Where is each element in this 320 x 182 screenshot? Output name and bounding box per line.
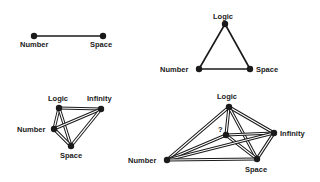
- d3-label-infinity: Infinity: [87, 94, 112, 103]
- d2-node-space: [247, 66, 253, 72]
- d3-node-number: [51, 126, 57, 132]
- d3-node-space: [68, 143, 74, 149]
- d2-label-logic: Logic: [213, 12, 233, 21]
- d4-node-space: [254, 156, 260, 162]
- d1-node-space: [100, 33, 106, 39]
- d2-node-number: [196, 66, 202, 72]
- edges-layer: [34, 24, 274, 160]
- d1-node-number: [31, 33, 37, 39]
- d2-node-logic: [222, 21, 228, 27]
- d3-node-infinity: [98, 106, 104, 112]
- d4-label-infinity: Infinity: [280, 129, 305, 138]
- d1-label-number: Number: [20, 40, 48, 49]
- d2-label-number: Number: [160, 65, 188, 74]
- d1-label-space: Space: [90, 40, 112, 49]
- d4-node-logic: [226, 104, 232, 110]
- d3-label-space: Space: [60, 151, 82, 160]
- d3-label-logic: Logic: [48, 94, 68, 103]
- d2-edge-logic-number: [199, 24, 225, 69]
- d4-label-space: Space: [245, 165, 267, 174]
- d4-label-logic: Logic: [217, 92, 237, 101]
- d3-node-logic: [56, 105, 62, 111]
- d4-node-unknown: [223, 132, 229, 138]
- d4-label-unknown: ?: [218, 125, 223, 134]
- d2-label-space: Space: [256, 65, 278, 74]
- d4-node-infinity: [271, 130, 277, 136]
- d3-label-number: Number: [17, 125, 45, 134]
- d2-edge-logic-space: [225, 24, 250, 69]
- d4-label-number: Number: [128, 156, 156, 165]
- d4-node-number: [164, 157, 170, 163]
- concept-graph-figure: Number Space Logic Number Space Logic In…: [0, 0, 320, 182]
